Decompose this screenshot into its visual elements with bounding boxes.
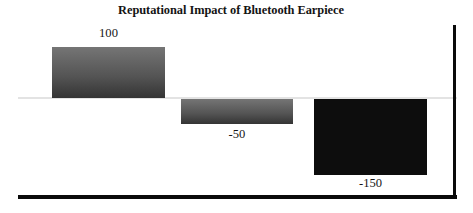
bar-series-1-point-1 xyxy=(52,47,165,98)
data-label-point-3: -150 xyxy=(314,176,427,191)
data-label-point-2: -50 xyxy=(181,127,293,142)
bottom-frame-rule xyxy=(18,195,457,199)
plot-area: 100 -50 -150 xyxy=(0,0,473,213)
data-label-point-1: 100 xyxy=(52,26,165,41)
bar-series-1-point-2 xyxy=(181,99,293,124)
right-frame-rule xyxy=(453,25,456,197)
bar-chart-figure: Reputational Impact of Bluetooth Earpiec… xyxy=(0,0,473,213)
bar-series-1-point-3 xyxy=(314,99,427,175)
